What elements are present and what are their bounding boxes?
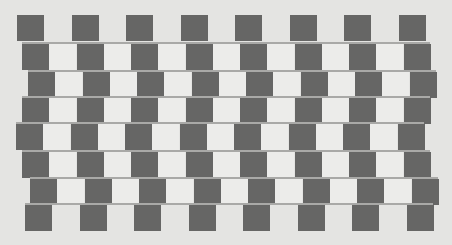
- wall-row: [30, 179, 438, 205]
- light-tile: [110, 72, 137, 98]
- light-tile: [376, 98, 403, 124]
- dark-tile: [240, 152, 267, 178]
- light-tile: [322, 98, 349, 124]
- wall-row: [25, 205, 433, 231]
- light-tile: [213, 152, 240, 178]
- dark-tile: [349, 152, 376, 178]
- dark-tile: [352, 205, 379, 231]
- dark-tile: [240, 98, 267, 124]
- dark-tile: [349, 44, 376, 70]
- wall-row: [17, 15, 426, 41]
- dark-tile: [180, 124, 207, 150]
- dark-tile: [398, 124, 425, 150]
- dark-tile: [126, 15, 153, 41]
- light-tile: [384, 179, 411, 205]
- dark-tile: [349, 98, 376, 124]
- dark-tile: [407, 205, 434, 231]
- dark-tile: [22, 152, 49, 178]
- dark-tile: [344, 15, 371, 41]
- light-tile: [213, 44, 240, 70]
- dark-tile: [186, 152, 213, 178]
- dark-tile: [234, 124, 261, 150]
- dark-tile: [246, 72, 273, 98]
- dark-tile: [77, 44, 104, 70]
- light-tile: [166, 179, 193, 205]
- dark-tile: [131, 98, 158, 124]
- light-tile: [382, 72, 409, 98]
- light-tile: [164, 72, 191, 98]
- dark-tile: [22, 98, 49, 124]
- dark-tile: [343, 124, 370, 150]
- dark-tile: [22, 44, 49, 70]
- dark-tile: [303, 179, 330, 205]
- dark-tile: [243, 205, 270, 231]
- wall-row: [22, 44, 430, 70]
- light-tile: [267, 44, 294, 70]
- light-tile: [152, 124, 179, 150]
- light-tile: [316, 124, 343, 150]
- wall-row: [16, 124, 424, 150]
- dark-tile: [295, 44, 322, 70]
- dark-tile: [134, 205, 161, 231]
- dark-tile: [186, 44, 213, 70]
- light-tile: [104, 98, 131, 124]
- dark-tile: [85, 179, 112, 205]
- light-tile: [213, 98, 240, 124]
- dark-tile: [240, 44, 267, 70]
- wall-row: [22, 152, 430, 178]
- light-tile: [158, 98, 185, 124]
- dark-tile: [404, 44, 431, 70]
- dark-tile: [399, 15, 426, 41]
- dark-tile: [16, 124, 43, 150]
- light-tile: [376, 152, 403, 178]
- dark-tile: [410, 72, 437, 98]
- light-tile: [267, 98, 294, 124]
- light-tile: [219, 72, 246, 98]
- dark-tile: [125, 124, 152, 150]
- dark-tile: [355, 72, 382, 98]
- light-tile: [328, 72, 355, 98]
- dark-tile: [194, 179, 221, 205]
- light-tile: [49, 98, 76, 124]
- dark-tile: [137, 72, 164, 98]
- dark-tile: [181, 15, 208, 41]
- light-tile: [55, 72, 82, 98]
- dark-tile: [357, 179, 384, 205]
- light-tile: [49, 152, 76, 178]
- dark-tile: [25, 205, 52, 231]
- light-tile: [112, 179, 139, 205]
- dark-tile: [248, 179, 275, 205]
- dark-tile: [404, 98, 431, 124]
- dark-tile: [192, 72, 219, 98]
- dark-tile: [404, 152, 431, 178]
- light-tile: [207, 124, 234, 150]
- light-tile: [221, 179, 248, 205]
- light-tile: [261, 124, 288, 150]
- light-tile: [158, 152, 185, 178]
- light-tile: [98, 124, 125, 150]
- light-tile: [273, 72, 300, 98]
- dark-tile: [289, 124, 316, 150]
- dark-tile: [295, 152, 322, 178]
- dark-tile: [131, 44, 158, 70]
- dark-tile: [186, 98, 213, 124]
- light-tile: [322, 44, 349, 70]
- dark-tile: [131, 152, 158, 178]
- light-tile: [370, 124, 397, 150]
- dark-tile: [71, 124, 98, 150]
- light-tile: [376, 44, 403, 70]
- light-tile: [322, 152, 349, 178]
- light-tile: [158, 44, 185, 70]
- wall-row: [22, 98, 430, 124]
- dark-tile: [28, 72, 55, 98]
- light-tile: [267, 152, 294, 178]
- light-tile: [57, 179, 84, 205]
- dark-tile: [290, 15, 317, 41]
- light-tile: [330, 179, 357, 205]
- light-tile: [104, 44, 131, 70]
- dark-tile: [30, 179, 57, 205]
- dark-tile: [235, 15, 262, 41]
- dark-tile: [301, 72, 328, 98]
- dark-tile: [295, 98, 322, 124]
- dark-tile: [412, 179, 439, 205]
